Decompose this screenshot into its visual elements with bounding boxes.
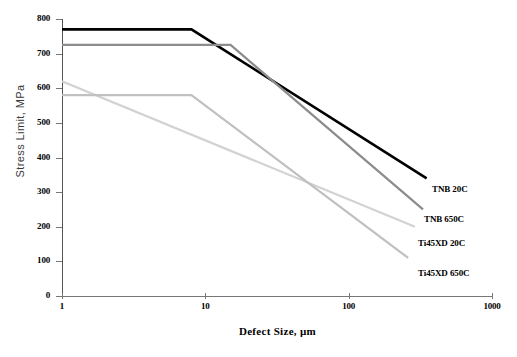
series-line-tnb-650c: [62, 45, 423, 209]
y-tick-label: 700: [20, 49, 50, 58]
series-label-ti45xd-650c: Ti45XD 650C: [418, 268, 470, 278]
chart-figure: Stress Limit, MPa 0100200300400500600700…: [0, 0, 517, 357]
y-tick-label: 400: [20, 153, 50, 162]
cropped-title-remnant: [0, 0, 517, 9]
series-line-ti45xd-650c: [62, 95, 408, 258]
y-tick-label: 200: [20, 222, 50, 231]
plot-lines: [62, 19, 492, 296]
y-tick-label: 600: [20, 83, 50, 92]
series-line-ti45xd-20c: [62, 81, 415, 226]
y-tick-label: 500: [20, 118, 50, 127]
y-tick-label: 800: [20, 14, 50, 23]
x-axis-line: [62, 296, 493, 297]
series-label-tnb-650c: TNB 650C: [424, 214, 464, 224]
x-tick-label: 100: [329, 301, 369, 311]
x-tick-mark: [492, 293, 493, 299]
x-tick-label: 1000: [472, 301, 512, 311]
y-tick-label: 100: [20, 256, 50, 265]
y-axis-title: Stress Limit, MPa: [14, 56, 26, 206]
y-tick-label: 300: [20, 187, 50, 196]
x-tick-label: 10: [185, 301, 225, 311]
series-label-tnb-20c: TNB 20C: [432, 184, 468, 194]
y-tick-label: 0: [20, 291, 50, 300]
x-axis-title: Defect Size, µm: [62, 325, 493, 337]
x-tick-label: 1: [42, 301, 82, 311]
series-label-ti45xd-20c: Ti45XD 20C: [418, 238, 465, 248]
